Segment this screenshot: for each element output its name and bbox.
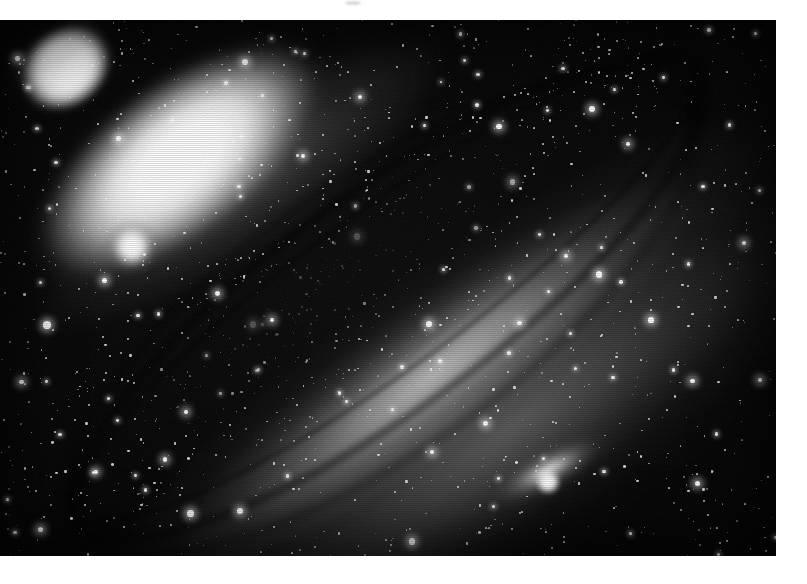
- star: [598, 71, 600, 73]
- star: [495, 154, 496, 155]
- star: [284, 430, 286, 432]
- star: [27, 486, 29, 488]
- star: [195, 26, 197, 28]
- star: [524, 175, 526, 177]
- star: [50, 476, 52, 478]
- star: [288, 223, 289, 224]
- star: [354, 499, 356, 501]
- star: [731, 489, 733, 491]
- star: [131, 472, 132, 473]
- star: [726, 290, 727, 291]
- star: [286, 474, 289, 477]
- star: [676, 122, 678, 124]
- star: [132, 80, 134, 82]
- star: [365, 179, 367, 181]
- star: [37, 59, 38, 60]
- star: [366, 340, 367, 341]
- star: [651, 64, 653, 66]
- star: [638, 86, 639, 87]
- star: [336, 374, 337, 375]
- star: [95, 174, 96, 175]
- star: [573, 38, 574, 39]
- star: [619, 280, 623, 284]
- star: [116, 419, 119, 422]
- star: [303, 52, 306, 55]
- star: [445, 266, 448, 269]
- star: [120, 48, 122, 50]
- star: [294, 50, 297, 53]
- star: [367, 186, 368, 187]
- star: [165, 174, 166, 175]
- star: [469, 130, 471, 132]
- star: [113, 61, 114, 62]
- star: [367, 170, 369, 172]
- star: [582, 175, 583, 176]
- star: [134, 474, 137, 477]
- star: [257, 368, 260, 371]
- star: [446, 395, 447, 396]
- star: [259, 32, 261, 34]
- star: [473, 211, 474, 212]
- star: [189, 138, 190, 139]
- star: [252, 373, 253, 374]
- star: [259, 174, 260, 175]
- star: [306, 359, 308, 361]
- star: [189, 307, 190, 308]
- star: [666, 409, 668, 411]
- star: [425, 451, 426, 452]
- star: [517, 321, 522, 326]
- star: [283, 64, 285, 66]
- star: [24, 251, 25, 252]
- star: [329, 180, 331, 182]
- star: [256, 224, 258, 226]
- star: [18, 195, 19, 196]
- star: [551, 547, 553, 549]
- bright-foreground-star: [430, 450, 434, 454]
- star: [200, 325, 201, 326]
- star: [248, 257, 249, 258]
- star-field: [0, 20, 776, 556]
- star: [290, 521, 292, 523]
- star: [141, 30, 142, 31]
- star: [93, 99, 95, 101]
- star: [338, 391, 341, 394]
- star: [156, 418, 157, 419]
- star: [79, 395, 80, 396]
- star: [701, 185, 704, 188]
- star: [680, 159, 681, 160]
- star: [22, 450, 23, 451]
- star: [688, 221, 690, 223]
- star: [92, 471, 95, 474]
- star: [23, 372, 25, 374]
- star: [255, 495, 257, 497]
- star: [519, 351, 520, 352]
- star: [359, 269, 361, 271]
- star: [86, 495, 88, 497]
- star: [611, 87, 612, 88]
- star: [707, 343, 709, 345]
- star: [88, 404, 90, 406]
- star: [761, 264, 762, 265]
- star: [266, 421, 267, 422]
- star: [343, 396, 344, 397]
- bright-foreground-star: [270, 318, 275, 323]
- star: [686, 417, 687, 418]
- star: [295, 535, 296, 536]
- star: [31, 432, 32, 433]
- star: [127, 338, 129, 340]
- star: [388, 117, 390, 119]
- star: [468, 239, 470, 241]
- star: [243, 275, 245, 277]
- star: [319, 57, 320, 58]
- star: [503, 96, 505, 98]
- star: [495, 405, 497, 407]
- star: [680, 173, 682, 175]
- star: [74, 419, 76, 421]
- star: [292, 398, 294, 400]
- star: [150, 330, 151, 331]
- star: [221, 64, 223, 66]
- star: [497, 409, 499, 411]
- star: [358, 338, 361, 341]
- star: [558, 48, 559, 49]
- star: [677, 361, 679, 363]
